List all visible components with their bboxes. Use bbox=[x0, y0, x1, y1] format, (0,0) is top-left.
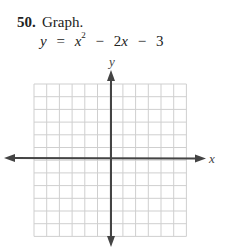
x-axis-left-arrow-icon bbox=[4, 154, 15, 162]
y-axis-down-arrow-icon bbox=[107, 236, 115, 247]
x-axis-label: x bbox=[208, 151, 215, 166]
coordinate-grid[interactable]: x y bbox=[0, 0, 227, 248]
x-axis bbox=[10, 158, 200, 159]
y-axis-up-arrow-icon bbox=[107, 70, 115, 81]
y-axis-label: y bbox=[107, 54, 115, 69]
x-axis-right-arrow-icon bbox=[195, 155, 206, 163]
